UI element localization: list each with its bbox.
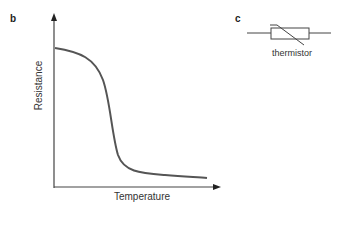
thermistor-symbol-icon bbox=[247, 25, 331, 45]
x-axis bbox=[54, 184, 221, 190]
y-axis bbox=[51, 13, 57, 188]
y-axis-label: Resistance bbox=[33, 46, 44, 126]
x-axis-label: Temperature bbox=[97, 191, 187, 202]
y-axis-arrow-icon bbox=[51, 13, 57, 21]
thermistor-label: thermistor bbox=[262, 48, 322, 58]
x-axis-arrow-icon bbox=[213, 184, 221, 190]
resistance-curve bbox=[55, 48, 207, 178]
